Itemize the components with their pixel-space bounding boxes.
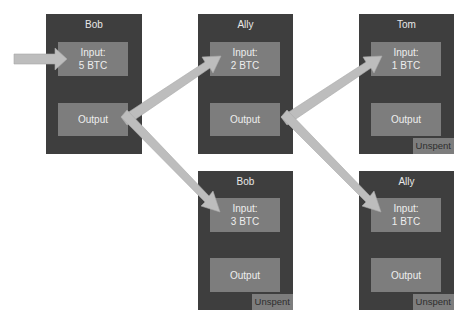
unspent-badge: Unspent (413, 138, 454, 154)
input-slot: Input: 1 BTC (371, 42, 441, 76)
unspent-badge: Unspent (413, 294, 454, 310)
input-label: Input: (232, 202, 257, 215)
output-slot: Output (210, 258, 280, 292)
input-amount: 1 BTC (392, 59, 420, 72)
input-label: Input: (80, 46, 105, 59)
input-label: Input: (393, 202, 418, 215)
owner-label: Bob (198, 176, 293, 187)
output-slot: Output (210, 103, 280, 136)
owner-label: Ally (359, 176, 454, 187)
input-slot: Input: 2 BTC (210, 42, 280, 76)
output-slot: Output (371, 103, 441, 136)
output-label: Output (230, 269, 260, 282)
input-slot: Input: 3 BTC (210, 198, 280, 232)
input-amount: 2 BTC (231, 59, 259, 72)
input-label: Input: (232, 46, 257, 59)
owner-label: Ally (198, 19, 293, 30)
input-slot: Input: 5 BTC (58, 42, 128, 76)
output-slot: Output (58, 103, 128, 136)
transaction-ally-2: Ally Input: 1 BTC Output Unspent (359, 171, 454, 310)
input-amount: 3 BTC (231, 215, 259, 228)
unspent-badge: Unspent (252, 294, 293, 310)
owner-label: Tom (359, 19, 454, 30)
output-label: Output (78, 113, 108, 126)
transaction-bob-2: Bob Input: 3 BTC Output Unspent (198, 171, 293, 310)
input-label: Input: (393, 46, 418, 59)
input-slot: Input: 1 BTC (371, 198, 441, 232)
input-amount: 5 BTC (79, 59, 107, 72)
output-slot: Output (371, 258, 441, 292)
transaction-tom-1: Tom Input: 1 BTC Output Unspent (359, 14, 454, 154)
output-label: Output (391, 269, 421, 282)
transaction-ally-1: Ally Input: 2 BTC Output (198, 14, 293, 154)
owner-label: Bob (46, 19, 142, 30)
transaction-bob-1: Bob Input: 5 BTC Output (46, 14, 142, 154)
output-label: Output (230, 113, 260, 126)
input-amount: 1 BTC (392, 215, 420, 228)
output-label: Output (391, 113, 421, 126)
